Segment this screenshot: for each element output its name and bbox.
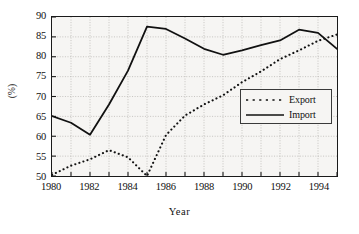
- chart-legend: Export Import: [240, 89, 332, 124]
- y-axis-title: (%): [7, 68, 17, 114]
- y-tick-label: 75: [20, 71, 46, 82]
- x-tick-label: 1994: [299, 182, 339, 193]
- x-tick-label: 1982: [69, 182, 109, 193]
- y-tick-label: 80: [20, 51, 46, 62]
- legend-item-import: Import: [245, 107, 327, 122]
- y-tick-label: 70: [20, 92, 46, 103]
- legend-item-export: Export: [245, 92, 327, 107]
- x-tick-label: 1990: [222, 182, 262, 193]
- x-tick-label: 1988: [184, 182, 224, 193]
- legend-label-export: Export: [285, 94, 316, 105]
- y-tick-label: 65: [20, 112, 46, 123]
- legend-swatch-dotted: [245, 95, 285, 105]
- x-tick-label: 1992: [261, 182, 301, 193]
- y-tick-label: 85: [20, 31, 46, 42]
- x-tick-label: 1984: [108, 182, 148, 193]
- chart-figure: 908580757065605550 198019821984198619881…: [0, 0, 359, 234]
- x-axis-title: Year: [0, 206, 359, 217]
- y-tick-label: 60: [20, 132, 46, 143]
- x-tick-label: 1986: [146, 182, 186, 193]
- x-tick-label: 1980: [31, 182, 71, 193]
- legend-label-import: Import: [285, 109, 316, 120]
- y-tick-label: 55: [20, 152, 46, 163]
- legend-swatch-solid: [245, 110, 285, 120]
- y-tick-label: 90: [20, 11, 46, 22]
